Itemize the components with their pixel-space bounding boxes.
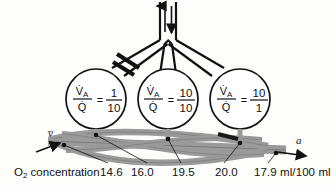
airway-tree <box>112 2 224 76</box>
vq-left-ratio-denominator: 10 <box>108 102 121 114</box>
vq-middle-ratio-denominator: 10 <box>180 102 193 114</box>
o2-value-high-vq: 20.0 <box>215 166 238 178</box>
vq-left-equals: = <box>97 94 103 106</box>
vq-left-denominator: Q̇ <box>78 101 87 113</box>
vq-middle-ratio-numerator: 10 <box>180 87 193 99</box>
o2-concentration-label: O2 concentration <box>14 166 100 180</box>
vq-left-ratio-numerator: 1 <box>111 87 117 99</box>
arterial-blood-symbol: a <box>296 134 302 146</box>
pulmonary-capillary-network <box>36 129 306 163</box>
vq-middle-equals: = <box>168 94 174 106</box>
leader-line-arterial <box>268 153 276 163</box>
carina <box>165 41 173 45</box>
o2-value-normal-vq: 19.5 <box>172 166 195 178</box>
o2-value-low-vq: 16.0 <box>131 166 154 178</box>
o2-value-venous: 14.6 <box>100 166 123 178</box>
vq-middle-denominator: Q̇ <box>149 101 158 113</box>
bronchial-obstruction-icon <box>113 54 139 75</box>
vq-right-equals: = <box>241 94 247 106</box>
ventilation-perfusion-diagram: V̇A Q̇ = 1 10 V̇A Q̇ = 10 10 V̇A Q̇ = 10… <box>0 0 336 191</box>
vq-right-ratio-numerator: 10 <box>253 87 266 99</box>
vq-right-denominator: Q̇ <box>222 101 231 113</box>
o2-label-prefix: O <box>14 166 23 178</box>
o2-label-suffix: concentration <box>27 166 99 178</box>
vq-right-ratio-denominator: 1 <box>256 102 262 114</box>
o2-value-arterial: 17.9 <box>254 166 277 178</box>
o2-units-label: ml/100 ml <box>280 166 331 178</box>
